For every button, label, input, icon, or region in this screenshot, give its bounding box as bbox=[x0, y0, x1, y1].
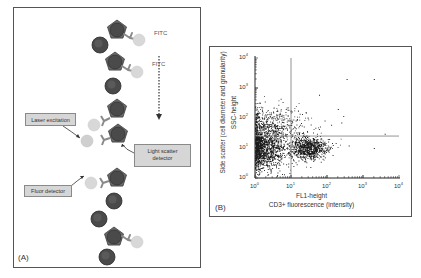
fluorophore-icon bbox=[85, 177, 97, 189]
y-tick-1: 101 bbox=[239, 142, 248, 150]
antibody-icon bbox=[101, 116, 110, 126]
antibody-icon bbox=[101, 135, 110, 145]
scatter-points bbox=[255, 79, 386, 177]
fluorophore-icon bbox=[88, 119, 100, 131]
arrowhead-icon bbox=[76, 134, 80, 138]
fitc-label-1: FITC bbox=[154, 30, 167, 36]
y-axis-label: Side scatter (cell diameter and granular… bbox=[219, 43, 226, 183]
antibody-icon bbox=[100, 178, 109, 188]
arrow-down-icon bbox=[156, 114, 162, 120]
y-tick-2: 102 bbox=[239, 112, 248, 120]
y-tick-0: 100 bbox=[239, 172, 248, 180]
fluorophore-icon bbox=[131, 66, 143, 78]
fitc-label-2: FITC bbox=[152, 61, 165, 67]
y-tick-3: 103 bbox=[239, 82, 248, 90]
x-tick-1: 101 bbox=[286, 181, 295, 189]
panel-b-label: (B) bbox=[215, 203, 226, 212]
x-tick-4: 104 bbox=[394, 181, 403, 189]
y-axis-sublabel: SSC-height bbox=[230, 43, 237, 183]
x-axis-sublabel: CD3+ fluorescence (intensity) bbox=[210, 201, 413, 208]
x-tick-0: 100 bbox=[250, 181, 259, 189]
x-tick-3: 103 bbox=[358, 181, 367, 189]
y-tick-4: 104 bbox=[239, 52, 248, 60]
fluorophore-icon bbox=[81, 135, 93, 147]
fluor-detector-callout: Fluor detector bbox=[24, 185, 72, 197]
axis-ticks bbox=[255, 58, 399, 178]
flow-cell-illustration bbox=[14, 8, 202, 269]
panel-a-label: (A) bbox=[18, 253, 29, 262]
x-tick-2: 102 bbox=[322, 181, 331, 189]
panel-b-scatter-plot: 104 103 102 101 100 100 101 102 103 104 … bbox=[209, 46, 412, 217]
fluorophore-icon bbox=[131, 236, 143, 248]
x-axis-label: FL1-height bbox=[210, 192, 413, 199]
laser-excitation-callout: Laser excitation bbox=[25, 113, 76, 126]
panel-a-flow-diagram: FITC FITC Laser excitation Light scatter… bbox=[13, 7, 201, 268]
light-scatter-detector-callout: Light scatter detector bbox=[134, 144, 191, 167]
fluorophore-icon bbox=[133, 34, 145, 46]
